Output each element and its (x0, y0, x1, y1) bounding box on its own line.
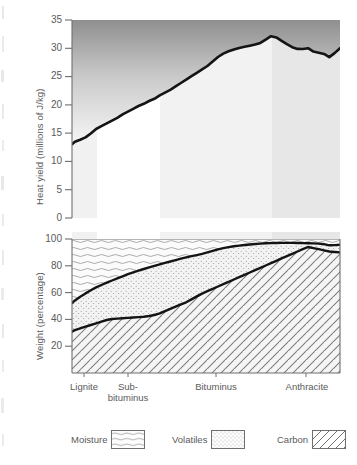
y-tick-top-0: 0 (38, 213, 62, 223)
legend-label-volatiles: Volatiles (172, 434, 207, 445)
y-tick-top-25: 25 (38, 71, 62, 81)
y-tick-top-10: 10 (38, 156, 62, 166)
y-tick-bottom-100: 100 (34, 234, 62, 244)
category-label-bituminus: Bituminus (188, 381, 244, 392)
y-tick-bottom-40: 40 (34, 314, 62, 324)
y-tick-top-20: 20 (38, 100, 62, 110)
legend-item-moisture: Moisture (71, 430, 145, 449)
y-tick-bottom-60: 60 (34, 288, 62, 298)
coal-rank-figure: Heat yield (millions of J/kg) 35 30 25 2… (0, 0, 357, 465)
legend-label-carbon: Carbon (277, 434, 308, 445)
y-tick-top-15: 15 (38, 128, 62, 138)
category-label-subbituminus: Sub- bituminus (100, 381, 156, 403)
legend-swatch-carbon-icon (312, 430, 346, 449)
legend-label-moisture: Moisture (71, 434, 107, 445)
band-anthracite-bottom (272, 232, 340, 239)
band-subbituminus-bottom (97, 232, 160, 239)
band-bituminus-bottom (160, 232, 272, 239)
y-tick-bottom-80: 80 (34, 261, 62, 271)
y-tick-top-30: 30 (38, 43, 62, 53)
legend-item-carbon: Carbon (277, 430, 346, 449)
y-ticks-bottom (65, 239, 72, 346)
category-label-anthracite: Anthracite (278, 381, 336, 392)
heat-yield-panel (65, 20, 340, 218)
x-ticks (84, 373, 306, 377)
legend-item-volatiles: Volatiles (172, 430, 245, 449)
legend-swatch-moisture-icon (111, 430, 145, 449)
page-edge-artifacts (1, 6, 4, 446)
y-tick-bottom-20: 20 (34, 341, 62, 351)
band-lignite-bottom (72, 232, 97, 239)
composition-panel (65, 232, 340, 377)
legend-swatch-volatiles-icon (211, 430, 245, 449)
y-ticks-top (65, 20, 72, 218)
category-bands-bottom (72, 232, 340, 239)
y-tick-top-35: 35 (38, 15, 62, 25)
y-tick-top-5: 5 (38, 185, 62, 195)
